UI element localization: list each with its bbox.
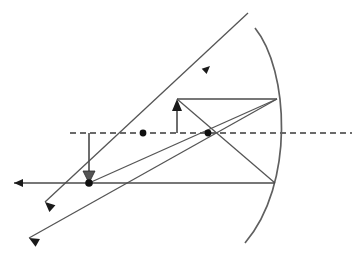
center-of-curvature-marker (205, 130, 212, 137)
ray-diagram-canvas (0, 0, 357, 259)
image-point-marker (85, 179, 93, 187)
focal-point-marker (140, 130, 147, 137)
diagram-background (0, 0, 357, 259)
concave-mirror-ray-diagram (0, 0, 357, 259)
